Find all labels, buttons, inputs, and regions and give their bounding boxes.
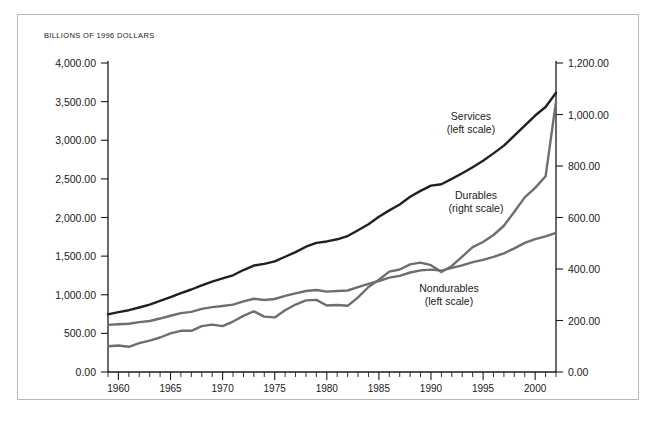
- series-line-nondurables: [108, 233, 556, 325]
- left-axis-tick-label: 0.00: [76, 366, 97, 378]
- x-axis-tick-label: 1960: [107, 383, 130, 394]
- right-axis-tick-label: 800.00: [568, 160, 600, 172]
- series-annotation-name: Nondurables: [419, 282, 479, 294]
- series-annotation-durables: Durables(right scale): [449, 189, 504, 214]
- x-axis-tick-label: 1995: [472, 383, 495, 394]
- right-axis-tick-label: 0.00: [568, 366, 589, 378]
- x-axis-ticks: 196019651970197519801985199019952000: [107, 372, 556, 394]
- x-axis-tick-label: 1985: [368, 383, 391, 394]
- right-axis-tick-label: 600.00: [568, 212, 600, 224]
- left-axis-tick-label: 2,500.00: [55, 173, 96, 185]
- right-axis-tick-label: 1,200.00: [568, 57, 609, 69]
- x-axis-tick-label: 1970: [211, 383, 234, 394]
- left-axis-tick-label: 2,000.00: [55, 212, 96, 224]
- chart-plot-area: 0.00500.001,000.001,500.002,000.002,500.…: [0, 0, 655, 426]
- series-annotation-scale: (left scale): [425, 295, 473, 307]
- left-axis-ticks: 0.00500.001,000.001,500.002,000.002,500.…: [55, 57, 108, 378]
- right-axis-tick-label: 400.00: [568, 263, 600, 275]
- series-annotation-name: Durables: [455, 189, 497, 201]
- right-axis-ticks: 0.00200.00400.00600.00800.001,000.001,20…: [556, 57, 609, 378]
- series-line-durables: [108, 102, 556, 347]
- x-axis-tick-label: 1990: [420, 383, 443, 394]
- x-axis-tick-label: 1975: [264, 383, 287, 394]
- right-axis-tick-label: 200.00: [568, 315, 600, 327]
- left-axis-tick-label: 3,500.00: [55, 96, 96, 108]
- series-annotation-name: Services: [451, 110, 491, 122]
- left-axis-tick-label: 3,000.00: [55, 134, 96, 146]
- series-annotation-nondurables: Nondurables(left scale): [419, 282, 479, 307]
- left-axis-tick-label: 500.00: [64, 327, 96, 339]
- left-axis-tick-label: 1,500.00: [55, 250, 96, 262]
- series-annotation-services: Services(left scale): [447, 110, 495, 135]
- x-axis-tick-label: 1980: [316, 383, 339, 394]
- series-annotation-scale: (right scale): [449, 202, 504, 214]
- x-axis-tick-label: 2000: [524, 383, 547, 394]
- x-axis-tick-label: 1965: [159, 383, 182, 394]
- axis-lines: [108, 61, 556, 372]
- figure-root: BILLIONS OF 1996 DOLLARS 0.00500.001,000…: [0, 0, 655, 426]
- left-axis-tick-label: 4,000.00: [55, 57, 96, 69]
- series-annotation-scale: (left scale): [447, 123, 495, 135]
- series-annotations-group: Services(left scale)Durables(right scale…: [419, 110, 503, 307]
- left-axis-tick-label: 1,000.00: [55, 289, 96, 301]
- right-axis-tick-label: 1,000.00: [568, 109, 609, 121]
